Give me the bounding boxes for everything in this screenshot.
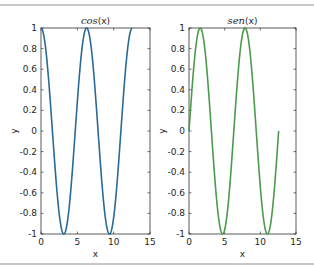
y-axis-label: y [9, 128, 19, 134]
y-tick-label: 0.8 [171, 44, 186, 54]
y-tick-label: 0.2 [23, 105, 37, 115]
y-tick-label: 0.4 [171, 85, 186, 95]
y-tick-label: 1 [31, 23, 37, 33]
axes-sin: -1-0.8-0.6-0.4-0.200.20.40.60.81051015xy… [157, 15, 302, 259]
chart-title: cos(x) [81, 15, 110, 26]
y-tick-label: -0.4 [167, 167, 185, 177]
x-tick-label: 5 [222, 237, 228, 247]
y-tick-label: 0.6 [23, 64, 38, 74]
y-tick-label: 0.2 [171, 105, 185, 115]
figure: -1-0.8-0.6-0.4-0.200.20.40.60.81051015xy… [0, 0, 314, 267]
y-tick-label: -0.2 [19, 147, 37, 157]
y-tick-label: 0 [31, 126, 37, 136]
y-tick-label: -0.6 [167, 188, 185, 198]
y-tick-label: -0.2 [167, 147, 185, 157]
x-axis-label: x [240, 249, 246, 259]
y-tick-label: -0.8 [167, 208, 185, 218]
y-tick-label: 0.4 [23, 85, 38, 95]
plot-area [189, 28, 296, 234]
x-tick-label: 0 [186, 237, 192, 247]
x-tick-label: 10 [255, 237, 267, 247]
y-tick-label: -0.6 [19, 188, 37, 198]
y-tick-label: 0 [179, 126, 185, 136]
x-tick-label: 15 [290, 237, 301, 247]
chart-title: sen(x) [228, 15, 258, 26]
x-tick-label: 10 [108, 237, 120, 247]
x-tick-label: 5 [74, 237, 80, 247]
y-axis-label: y [157, 128, 167, 134]
y-tick-label: -0.8 [19, 208, 37, 218]
x-tick-label: 15 [144, 237, 155, 247]
x-axis-label: x [93, 249, 99, 259]
y-tick-label: -0.4 [19, 167, 37, 177]
y-tick-label: -1 [176, 229, 185, 239]
x-tick-label: 0 [38, 237, 44, 247]
y-tick-label: 1 [179, 23, 185, 33]
y-tick-label: 0.8 [23, 44, 38, 54]
y-tick-label: -1 [28, 229, 37, 239]
axes-cos: -1-0.8-0.6-0.4-0.200.20.40.60.81051015xy… [9, 15, 156, 259]
y-tick-label: 0.6 [171, 64, 186, 74]
